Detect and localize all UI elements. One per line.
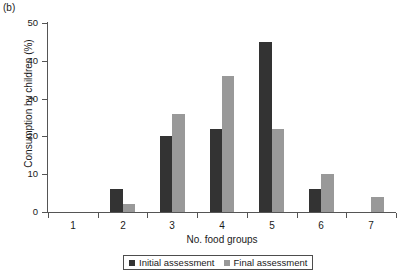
figure-panel-b: (b) 01020304050 1234567 Consumption by c…	[0, 0, 405, 272]
legend-entry-1: Initial assessment	[129, 258, 215, 268]
x-axis-tick-label: 3	[152, 220, 192, 231]
legend-swatch-icon	[224, 260, 230, 266]
bar-initial-assessment-cat-4	[210, 129, 222, 212]
plot-area	[48, 23, 396, 212]
x-axis-tick	[197, 213, 198, 218]
x-axis-tick-label: 6	[301, 220, 341, 231]
bar-final-assessment-cat-5	[272, 129, 284, 212]
x-axis-tick-label: 5	[252, 220, 292, 231]
legend-label: Initial assessment	[139, 258, 215, 268]
bar-final-assessment-cat-4	[222, 76, 234, 212]
panel-label: (b)	[3, 2, 15, 14]
bar-final-assessment-cat-3	[172, 114, 184, 212]
x-axis-tick	[396, 213, 397, 218]
bar-final-assessment-cat-2	[123, 204, 135, 212]
y-axis-title: Consumption by children (%)	[23, 4, 34, 204]
chart-legend: Initial assessmentFinal assessment	[123, 255, 313, 270]
x-axis-tick-label: 7	[351, 220, 391, 231]
x-axis-tick	[346, 213, 347, 218]
bar-final-assessment-cat-7	[371, 197, 383, 212]
x-axis-tick-label: 4	[202, 220, 242, 231]
x-axis-line	[47, 212, 396, 213]
x-axis-tick	[48, 213, 49, 218]
bar-final-assessment-cat-6	[321, 174, 333, 212]
x-axis-tick-label: 2	[103, 220, 143, 231]
x-axis-title: No. food groups	[48, 234, 396, 245]
y-axis-tick-label: 0	[10, 207, 38, 217]
bar-initial-assessment-cat-5	[259, 42, 271, 212]
x-axis-tick	[247, 213, 248, 218]
x-axis-tick	[147, 213, 148, 218]
x-axis-tick	[297, 213, 298, 218]
legend-label: Final assessment	[234, 258, 308, 268]
bar-initial-assessment-cat-6	[309, 189, 321, 212]
x-axis-tick	[98, 213, 99, 218]
x-axis-tick-label: 1	[53, 220, 93, 231]
legend-entry-2: Final assessment	[224, 258, 308, 268]
bar-initial-assessment-cat-3	[160, 136, 172, 212]
bar-initial-assessment-cat-2	[110, 189, 122, 212]
legend-swatch-icon	[129, 260, 135, 266]
